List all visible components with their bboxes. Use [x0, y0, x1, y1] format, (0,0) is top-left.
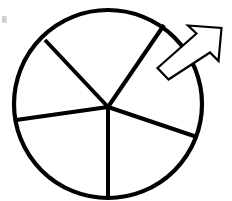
corner-speck-icon — [2, 16, 7, 23]
pie-diagram-canvas — [0, 0, 232, 201]
pie-spinner-figure — [0, 0, 232, 201]
